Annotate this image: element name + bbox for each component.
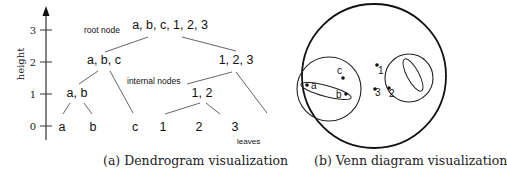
leaf-b-label: b bbox=[90, 120, 97, 134]
leaf-2-label: 2 bbox=[196, 120, 203, 134]
point-2-label: 2 bbox=[389, 88, 395, 99]
set-12-ellipse bbox=[399, 56, 426, 93]
point-c-dot bbox=[341, 76, 345, 80]
tick-label-0: 0 bbox=[30, 121, 36, 132]
height-axis: 3 2 1 0 height bbox=[15, 6, 52, 140]
leaves-annotation: leaves bbox=[237, 137, 260, 146]
tick-label-2: 2 bbox=[30, 57, 36, 68]
point-b-label: b bbox=[336, 89, 342, 100]
axis-label: height bbox=[15, 48, 26, 80]
leaf-c-label: c bbox=[132, 120, 138, 134]
axis-arrow-icon bbox=[43, 6, 50, 16]
node-abc-label: a, b, c bbox=[87, 53, 121, 67]
tick-label-3: 3 bbox=[30, 25, 36, 36]
node-12-label: 1, 2 bbox=[192, 86, 213, 100]
leaf-a-label: a bbox=[59, 120, 66, 134]
leaf-1-label: 1 bbox=[160, 120, 167, 134]
set-abc-circle bbox=[297, 57, 361, 121]
node-ab-label: a, b bbox=[67, 86, 88, 100]
point-c-label: c bbox=[337, 65, 342, 76]
point-a-dot bbox=[305, 83, 309, 87]
root-node-annotation: root node bbox=[84, 25, 120, 35]
set-ab-ellipse bbox=[299, 79, 352, 103]
internal-nodes-annotation: internal nodes bbox=[127, 76, 180, 86]
point-1-label: 1 bbox=[378, 65, 384, 76]
outer-set-circle bbox=[302, 4, 446, 148]
point-a-label: a bbox=[311, 80, 317, 91]
point-3-label: 3 bbox=[375, 87, 381, 98]
tick-label-1: 1 bbox=[30, 89, 36, 100]
dendrogram-caption: (a) Dendrogram visualization bbox=[103, 153, 288, 168]
root-node-label: a, b, c, 1, 2, 3 bbox=[132, 18, 208, 32]
venn-caption: (b) Venn diagram visualization bbox=[314, 153, 507, 168]
point-b-dot bbox=[344, 92, 348, 96]
leaf-3-label: 3 bbox=[232, 120, 239, 134]
node-123-label: 1, 2, 3 bbox=[219, 53, 254, 67]
venn-diagram bbox=[297, 4, 446, 148]
